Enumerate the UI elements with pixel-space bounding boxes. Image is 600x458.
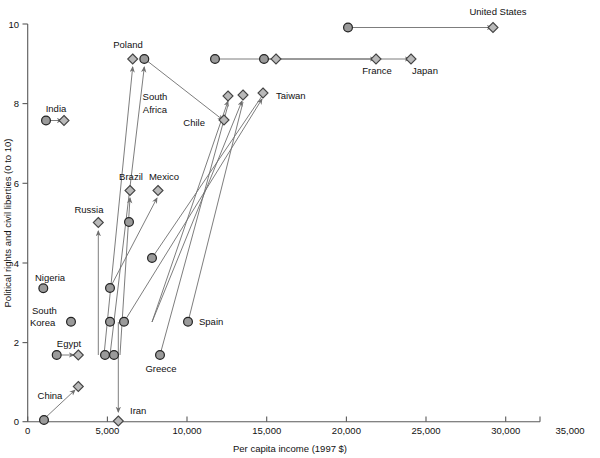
- marker-diamond-chile-a[interactable]: [223, 91, 233, 101]
- marker-circle-russia[interactable]: [101, 351, 110, 360]
- x-axis-title: Per capita income (1997 $): [233, 443, 347, 454]
- label-greece: Greece: [145, 363, 176, 374]
- marker-circle-united-states[interactable]: [344, 23, 353, 32]
- x-tick-label-5000: 5,000: [96, 425, 120, 436]
- marker-diamond-spain[interactable]: [238, 90, 248, 100]
- marker-circle-japan[interactable]: [260, 55, 269, 64]
- x-tick-label-0: 0: [25, 425, 30, 436]
- marker-circle-nigeria[interactable]: [39, 284, 48, 293]
- marker-diamond-poland[interactable]: [128, 54, 138, 64]
- y-tick-label-8: 8: [14, 98, 19, 109]
- x-tick-label-20000: 20,000: [332, 425, 361, 436]
- marker-circle-poland-start[interactable]: [110, 351, 119, 360]
- y-tick-label-0: 0: [14, 416, 19, 427]
- y-axis-title: Political rights and civil liberties (0 …: [2, 139, 13, 308]
- marker-circle-unlabeled[interactable]: [148, 254, 157, 263]
- marker-diamond-japan[interactable]: [406, 54, 416, 64]
- y-axis: 10 8 6 4 2 0 Political rights and civil …: [2, 19, 28, 428]
- connector-mexico: [110, 198, 157, 288]
- label-united-states: United States: [469, 6, 526, 17]
- connector-chile: [152, 101, 228, 322]
- label-spain: Spain: [199, 316, 223, 327]
- label-france: France: [362, 65, 392, 76]
- x-tick-label-30000: 30,000: [491, 425, 520, 436]
- marker-diamond-egypt[interactable]: [73, 350, 83, 360]
- marker-circle-spain[interactable]: [184, 317, 193, 326]
- y-tick-label-6: 6: [14, 178, 19, 189]
- x-tick-label-35000: 35,000: [555, 425, 584, 436]
- y-tick-label-2: 2: [14, 337, 19, 348]
- label-nigeria: Nigeria: [35, 272, 66, 283]
- label-south-africa-line2: Africa: [143, 104, 168, 115]
- label-japan: Japan: [412, 65, 438, 76]
- label-taiwan: Taiwan: [276, 90, 306, 101]
- marker-circle-south-korea[interactable]: [67, 317, 76, 326]
- x-tick-label-10000: 10,000: [172, 425, 201, 436]
- marker-diamond-united-states[interactable]: [488, 23, 498, 33]
- x-tick-label-15000: 15,000: [252, 425, 281, 436]
- label-south-africa-line1: South: [143, 91, 168, 102]
- x-tick-label-25000: 25,000: [411, 425, 440, 436]
- marker-diamond-taiwan[interactable]: [258, 88, 268, 98]
- label-india: India: [46, 103, 67, 114]
- marker-circle-brazil[interactable]: [125, 218, 134, 227]
- data-markers: [39, 23, 498, 427]
- marker-circle-france[interactable]: [211, 55, 220, 64]
- label-egypt: Egypt: [57, 338, 82, 349]
- x-axis: 0 5,000 10,000 15,000 20,000 25,000 30,0…: [25, 417, 584, 455]
- connector-spain: [188, 102, 243, 322]
- label-poland: Poland: [113, 39, 143, 50]
- marker-circle-poland-south-africa[interactable]: [140, 55, 149, 64]
- label-russia: Russia: [74, 204, 104, 215]
- scatter-chart: 10 8 6 4 2 0 Political rights and civil …: [0, 0, 600, 458]
- marker-diamond-india[interactable]: [59, 116, 69, 126]
- label-iran: Iran: [130, 405, 146, 416]
- marker-circle-taiwan[interactable]: [120, 317, 129, 326]
- marker-diamond-mexico[interactable]: [153, 186, 163, 196]
- marker-diamond-russia[interactable]: [93, 218, 103, 228]
- connector-poland: [104, 67, 133, 355]
- marker-circle-china[interactable]: [40, 416, 49, 425]
- label-brazil: Brazil: [119, 171, 143, 182]
- label-mexico: Mexico: [149, 171, 179, 182]
- label-china: China: [38, 390, 64, 401]
- marker-circle-india[interactable]: [42, 116, 51, 125]
- connector-chile-second: [152, 101, 242, 322]
- connector-taiwan: [124, 99, 262, 322]
- marker-circle-chile[interactable]: [106, 317, 115, 326]
- y-tick-label-10: 10: [8, 19, 19, 30]
- marker-diamond-france[interactable]: [371, 54, 381, 64]
- label-chile: Chile: [183, 117, 205, 128]
- marker-circle-egypt[interactable]: [52, 351, 61, 360]
- label-south-korea-line1: South: [32, 305, 57, 316]
- marker-diamond-brazil[interactable]: [125, 186, 135, 196]
- change-connectors: [44, 28, 492, 420]
- connector-south-africa: [110, 67, 144, 355]
- marker-diamond-row[interactable]: [271, 54, 281, 64]
- label-south-korea-line2: Korea: [30, 317, 56, 328]
- y-tick-label-4: 4: [14, 258, 19, 269]
- marker-circle-greece[interactable]: [156, 351, 165, 360]
- marker-circle-mexico[interactable]: [106, 284, 115, 293]
